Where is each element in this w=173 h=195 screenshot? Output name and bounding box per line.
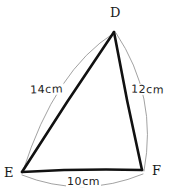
geometry-figure: D E F 14cm 12cm 10cm <box>0 0 173 195</box>
vertex-label-f: F <box>152 164 161 177</box>
side-length-label-df: 12cm <box>130 83 166 95</box>
vertex-label-d: D <box>110 6 120 19</box>
side-length-label-de: 14cm <box>29 83 65 95</box>
triangle-sides <box>22 32 142 172</box>
side-length-label-ef: 10cm <box>66 176 101 187</box>
triangle-drawing <box>0 0 173 195</box>
vertex-label-e: E <box>4 166 14 179</box>
side-ef <box>22 170 142 172</box>
arc-side-df <box>116 33 148 171</box>
side-de <box>22 32 114 172</box>
